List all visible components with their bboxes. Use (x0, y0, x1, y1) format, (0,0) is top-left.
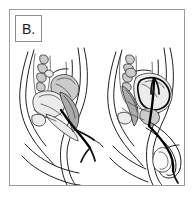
male-pelvis-figure (108, 48, 181, 185)
figure-panel: B. .ln { fill:none; stroke:#1f1f1f; stro… (9, 9, 185, 186)
pubic-symphysis (32, 114, 46, 126)
female-pelvis-figure (20, 48, 103, 185)
pubic-symphysis (118, 112, 132, 124)
anatomy-illustration: .ln { fill:none; stroke:#1f1f1f; stroke-… (10, 44, 184, 185)
panel-label-box: B. (15, 15, 42, 42)
panel-label: B. (22, 22, 35, 36)
anatomy-illustration-svg: .ln { fill:none; stroke:#1f1f1f; stroke-… (10, 44, 184, 185)
